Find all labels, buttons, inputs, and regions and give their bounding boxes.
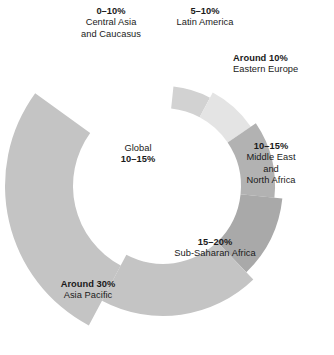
- segment-label-eastern-europe: Around 10% Eastern Europe: [233, 53, 334, 76]
- segment-name-central-asia-line1: Central Asia: [59, 17, 163, 28]
- segment-value-central-asia: 0–10%: [59, 6, 163, 17]
- segment-value-eastern-europe: Around 10%: [233, 53, 334, 64]
- segment-label-central-asia: 0–10% Central Asia and Caucasus: [59, 6, 163, 40]
- segment-value-mena: 10–15%: [232, 141, 310, 152]
- segment-name-central-asia-line2: and Caucasus: [59, 29, 163, 40]
- segment-name-sub-saharan-africa: Sub-Saharan Africa: [140, 248, 290, 259]
- center-label-global-value: 10–15%: [92, 154, 184, 165]
- segment-value-asia-pacific: Around 30%: [24, 279, 152, 290]
- center-label-global: Global 10–15%: [92, 143, 184, 166]
- segment-name-asia-pacific: Asia Pacific: [24, 290, 152, 301]
- segment-label-middle-east-north-africa: 10–15% Middle East and North Africa: [232, 141, 310, 187]
- segment-value-latin-america: 5–10%: [159, 6, 251, 17]
- segment-name-latin-america: Latin America: [159, 17, 251, 28]
- segment-name-mena-line1: Middle East: [232, 152, 310, 163]
- segment-name-mena-line2: and: [232, 164, 310, 175]
- segment-name-mena-line3: North Africa: [232, 175, 310, 186]
- segment-value-sub-saharan-africa: 15–20%: [140, 237, 290, 248]
- segment-label-latin-america: 5–10% Latin America: [159, 6, 251, 29]
- segment-label-sub-saharan-africa: 15–20% Sub-Saharan Africa: [140, 237, 290, 260]
- segment-label-asia-pacific: Around 30% Asia Pacific: [24, 279, 152, 302]
- center-label-global-name: Global: [92, 143, 184, 154]
- donut-chart: 0–10% Central Asia and Caucasus 5–10% La…: [0, 0, 334, 355]
- segment-name-eastern-europe: Eastern Europe: [233, 64, 334, 75]
